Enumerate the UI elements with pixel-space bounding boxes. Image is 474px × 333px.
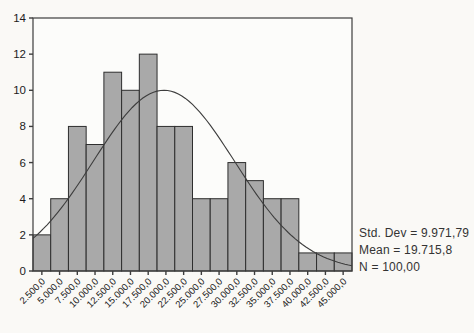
histogram-bar (246, 181, 264, 271)
histogram-bar (33, 235, 51, 271)
histogram-bar (157, 126, 175, 271)
histogram-bar (193, 199, 211, 271)
y-axis-label: 6 (20, 157, 26, 169)
stat-std-dev: Std. Dev = 9.971,79 (359, 225, 469, 242)
x-axis-labels: 2.500,05.000,07.500,010.000,012.500,015.… (17, 276, 348, 310)
y-axis-label: 10 (13, 84, 26, 96)
stats-panel: Std. Dev = 9.971,79 Mean = 19.715,8 N = … (359, 225, 469, 276)
histogram-chart: 2.500,05.000,07.500,010.000,012.500,015.… (0, 0, 474, 333)
y-axis-label: 2 (20, 229, 26, 241)
stat-mean: Mean = 19.715,8 (359, 242, 469, 259)
histogram-bar (299, 253, 317, 271)
histogram-figure: 2.500,05.000,07.500,010.000,012.500,015.… (0, 0, 474, 333)
y-axis-label: 8 (20, 120, 26, 132)
histogram-bar (86, 145, 104, 272)
histogram-bar (228, 163, 246, 271)
y-axis-label: 12 (13, 48, 26, 60)
histogram-bar (68, 126, 86, 271)
y-axis-label: 14 (13, 12, 26, 24)
histogram-bar (263, 199, 281, 271)
histogram-bar (317, 253, 335, 271)
y-axis-labels: 02468101214 (13, 12, 26, 277)
y-axis-label: 4 (20, 193, 27, 205)
histogram-bar (175, 126, 193, 271)
histogram-bar (139, 54, 157, 271)
y-axis-label: 0 (20, 265, 26, 277)
histogram-bar (210, 199, 228, 271)
stat-n: N = 100,00 (359, 259, 469, 276)
histogram-bar (104, 72, 122, 271)
